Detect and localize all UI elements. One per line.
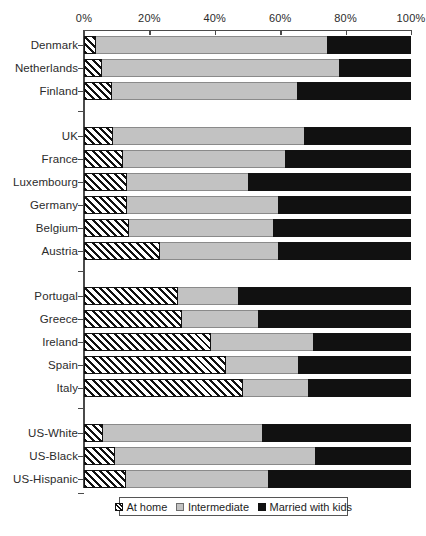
bar-segment-at-home [84, 447, 115, 465]
x-tick [149, 30, 150, 35]
bar-segment-intermediate [243, 379, 308, 397]
x-tick-label: 60% [269, 12, 292, 24]
bar-segment-intermediate [127, 196, 278, 214]
bar-segment-at-home [84, 82, 112, 100]
category-label: Denmark [31, 36, 78, 54]
bar-segment-married-with-kids [238, 287, 411, 305]
bar-segment-married-with-kids [327, 36, 411, 54]
bar-row [84, 424, 411, 442]
bar-segment-married-with-kids [339, 59, 411, 77]
category-label: Austria [42, 242, 79, 260]
bar-row [84, 242, 411, 260]
legend-label: Intermediate [188, 501, 249, 513]
bar-row [84, 379, 411, 397]
bar-segment-at-home [84, 196, 127, 214]
category-label: US-Hispanic [13, 470, 78, 488]
category-label: Luxembourg [13, 173, 78, 191]
category-label: France [42, 150, 78, 168]
bar-segment-intermediate [102, 59, 339, 77]
bar-segment-at-home [84, 287, 178, 305]
bar-segment-at-home [84, 219, 129, 237]
bar-segment-married-with-kids [273, 219, 411, 237]
bar-segment-intermediate [226, 356, 298, 374]
bar-segment-intermediate [115, 447, 315, 465]
x-tick-label: 0% [76, 12, 92, 24]
bar-segment-at-home [84, 59, 102, 77]
y-tick-end [78, 493, 84, 494]
category-label: Netherlands [15, 59, 78, 77]
legend-label: Married with kids [270, 501, 353, 513]
y-group-tick [78, 408, 84, 409]
bar-segment-married-with-kids [268, 470, 411, 488]
bar-segment-at-home [84, 470, 126, 488]
bar-row [84, 36, 411, 54]
bar-segment-at-home [84, 379, 243, 397]
category-label: Spain [48, 356, 78, 374]
category-label: Belgium [36, 219, 78, 237]
bar-segment-intermediate [113, 127, 304, 145]
category-label: Italy [56, 379, 78, 397]
chart-legend: At homeIntermediateMarried with kids [119, 497, 348, 516]
bar-segment-intermediate [123, 150, 285, 168]
bar-segment-at-home [84, 127, 113, 145]
bar-row [84, 127, 411, 145]
x-tick [280, 30, 281, 35]
category-label: Finland [40, 82, 78, 100]
x-axis-line [83, 30, 412, 32]
bar-row [84, 310, 411, 328]
y-group-tick [78, 111, 84, 112]
bar-row [84, 447, 411, 465]
bar-segment-married-with-kids [262, 424, 411, 442]
bar-segment-intermediate [126, 470, 268, 488]
bar-segment-intermediate [127, 173, 248, 191]
category-label: US-White [28, 424, 78, 442]
bar-segment-at-home [84, 310, 182, 328]
x-tick [215, 30, 216, 35]
bar-segment-intermediate [112, 82, 297, 100]
bar-segment-married-with-kids [298, 356, 411, 374]
bar-segment-intermediate [103, 424, 262, 442]
bar-segment-intermediate [178, 287, 238, 305]
stacked-bar-chart: 0%20%40%60%80%100% DenmarkNetherlandsFin… [0, 0, 426, 536]
bar-segment-married-with-kids [308, 379, 411, 397]
x-tick [411, 30, 412, 35]
bar-segment-married-with-kids [278, 242, 411, 260]
legend-item: At home [115, 501, 167, 513]
bar-segment-married-with-kids [258, 310, 411, 328]
legend-swatch-icon [176, 503, 184, 511]
bar-row [84, 356, 411, 374]
category-label: Germany [30, 196, 78, 214]
legend-item: Married with kids [258, 501, 352, 513]
bar-segment-intermediate [129, 219, 273, 237]
legend-label: At home [126, 501, 167, 513]
bar-segment-intermediate [211, 333, 313, 351]
bar-segment-at-home [84, 242, 160, 260]
category-label: UK [62, 127, 78, 145]
y-group-tick [78, 271, 84, 272]
x-tick-label: 20% [138, 12, 161, 24]
bar-segment-married-with-kids [285, 150, 411, 168]
bar-segment-intermediate [160, 242, 278, 260]
x-tick [84, 30, 85, 35]
bar-segment-married-with-kids [304, 127, 411, 145]
bar-row [84, 150, 411, 168]
bar-segment-at-home [84, 356, 226, 374]
bar-segment-intermediate [96, 36, 327, 54]
x-tick-label: 100% [397, 12, 426, 24]
bar-segment-intermediate [182, 310, 258, 328]
bar-row [84, 59, 411, 77]
bar-row [84, 82, 411, 100]
category-label: Ireland [42, 333, 78, 351]
x-tick [346, 30, 347, 35]
bar-row [84, 196, 411, 214]
bar-segment-married-with-kids [297, 82, 411, 100]
bar-segment-married-with-kids [313, 333, 411, 351]
category-label: US-Black [29, 447, 78, 465]
bar-segment-married-with-kids [278, 196, 411, 214]
bar-segment-at-home [84, 150, 123, 168]
legend-swatch-icon [258, 503, 266, 511]
bar-segment-at-home [84, 333, 211, 351]
x-tick-label: 40% [203, 12, 226, 24]
bar-segment-at-home [84, 424, 103, 442]
legend-swatch-icon [115, 503, 123, 511]
